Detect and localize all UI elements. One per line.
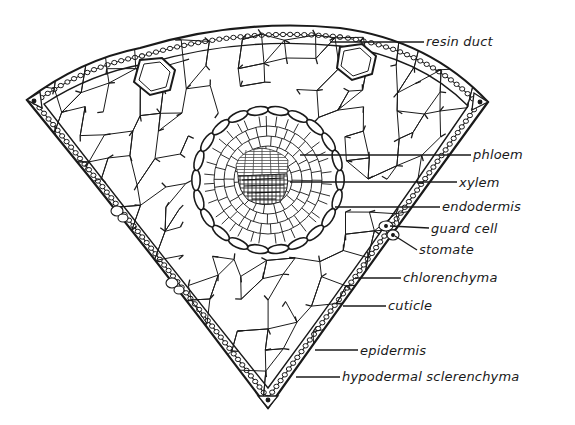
label-hypodermal-sclerenchyma: hypodermal sclerenchyma [342,370,520,383]
label-cuticle: cuticle [388,299,432,312]
label-chlorenchyma: chlorenchyma [403,271,498,284]
label-guard-cell: guard cell [431,222,498,235]
label-epidermis: epidermis [360,344,426,357]
pine-needle-cross-section-diagram: resin duct phloem xylem endodermis guard… [0,0,575,425]
label-stomate: stomate [419,243,474,256]
label-endodermis: endodermis [442,200,521,213]
label-phloem: phloem [473,148,523,161]
label-xylem: xylem [459,176,500,189]
label-resin-duct: resin duct [426,35,493,48]
